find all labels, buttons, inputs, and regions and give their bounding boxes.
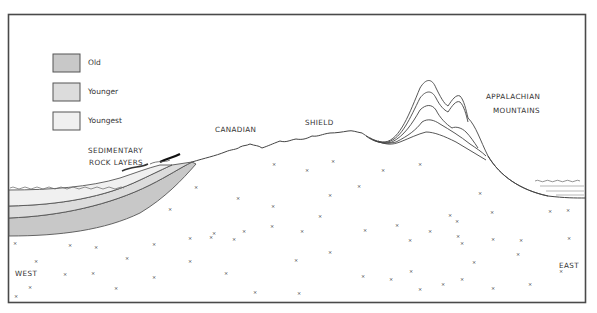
east-sea [488, 156, 585, 198]
label-appalachian-line1: APPALACHIAN [486, 92, 540, 101]
svg-text:×: × [272, 161, 276, 167]
canadian-shield-surface [192, 131, 362, 162]
svg-text:×: × [270, 223, 274, 229]
svg-text:×: × [14, 293, 18, 299]
legend-swatch-old [53, 54, 80, 72]
svg-text:×: × [297, 290, 301, 296]
svg-text:×: × [328, 192, 332, 198]
legend: Old Younger Youngest [53, 54, 122, 130]
svg-text:×: × [491, 285, 495, 291]
svg-text:×: × [428, 228, 432, 234]
svg-text:×: × [357, 183, 361, 189]
svg-text:×: × [188, 258, 192, 264]
label-west: WEST [15, 269, 37, 278]
svg-text:×: × [418, 161, 422, 167]
label-appalachian-line2: MOUNTAINS [493, 106, 540, 115]
svg-text:×: × [478, 190, 482, 196]
svg-text:×: × [331, 158, 335, 164]
svg-text:×: × [441, 281, 445, 287]
svg-text:×: × [418, 286, 422, 292]
label-sedimentary-line1: SEDIMENTARY [88, 146, 143, 155]
svg-text:×: × [209, 234, 213, 240]
svg-text:×: × [34, 258, 38, 264]
svg-text:×: × [460, 240, 464, 246]
svg-text:×: × [328, 249, 332, 255]
svg-text:×: × [94, 244, 98, 250]
svg-text:×: × [125, 255, 129, 261]
svg-text:×: × [548, 208, 552, 214]
geologic-cross-section: Old Younger Youngest ××× [0, 0, 597, 313]
svg-text:×: × [13, 240, 17, 246]
label-canadian: CANADIAN [215, 125, 256, 134]
svg-text:×: × [456, 233, 460, 239]
svg-text:×: × [152, 241, 156, 247]
legend-label-old: Old [88, 58, 101, 67]
legend-swatch-younger [53, 83, 80, 101]
label-sedimentary-line2: ROCK LAYERS [89, 158, 143, 167]
svg-text:×: × [567, 235, 571, 241]
svg-text:×: × [114, 285, 118, 291]
svg-text:×: × [381, 167, 385, 173]
svg-text:×: × [300, 228, 304, 234]
svg-text:×: × [232, 236, 236, 242]
bedrock-marks: ××× ××× ××× ××× ××× ××× ××× ××× ××× ××× … [13, 158, 571, 299]
svg-text:×: × [363, 227, 367, 233]
svg-text:×: × [389, 276, 393, 282]
svg-text:×: × [152, 274, 156, 280]
svg-text:×: × [516, 251, 520, 257]
label-east: EAST [559, 261, 579, 270]
svg-text:×: × [63, 271, 67, 277]
svg-text:×: × [68, 242, 72, 248]
svg-text:×: × [472, 259, 476, 265]
svg-text:×: × [242, 228, 246, 234]
svg-text:×: × [318, 213, 322, 219]
svg-text:×: × [490, 209, 494, 215]
label-shield: SHIELD [305, 118, 334, 127]
svg-text:×: × [409, 268, 413, 274]
svg-text:×: × [194, 184, 198, 190]
svg-text:×: × [253, 289, 257, 295]
outcrop-wisp-thin [150, 160, 170, 164]
svg-text:×: × [294, 257, 298, 263]
legend-swatch-youngest [53, 112, 80, 130]
svg-text:×: × [168, 206, 172, 212]
outcrop-wisp-dark [160, 154, 180, 162]
svg-text:×: × [455, 218, 459, 224]
svg-text:×: × [566, 207, 570, 213]
svg-text:×: × [305, 167, 309, 173]
svg-text:×: × [188, 235, 192, 241]
svg-text:×: × [519, 237, 523, 243]
svg-text:×: × [28, 284, 32, 290]
svg-text:×: × [236, 195, 240, 201]
svg-text:×: × [408, 237, 412, 243]
svg-text:×: × [460, 276, 464, 282]
svg-text:×: × [224, 270, 228, 276]
svg-text:×: × [491, 236, 495, 242]
svg-text:×: × [271, 203, 275, 209]
svg-text:×: × [395, 222, 399, 228]
svg-text:×: × [448, 212, 452, 218]
legend-label-youngest: Youngest [87, 116, 122, 125]
svg-text:×: × [361, 273, 365, 279]
svg-text:×: × [528, 281, 532, 287]
legend-label-younger: Younger [87, 87, 119, 96]
svg-text:×: × [91, 270, 95, 276]
